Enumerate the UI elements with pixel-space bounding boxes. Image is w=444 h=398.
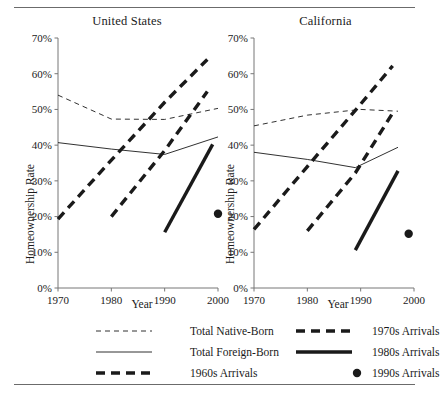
plot-area-united-states: 0%10%20%30%40%50%60%70%1970198019902000 [58, 38, 218, 288]
legend-label-1990s-arrivals: 1990s Arrivals [368, 367, 444, 379]
legend-swatch-1980s-arrivals [296, 341, 368, 362]
legend-label-total-foreign-born: Total Foreign-Born [184, 346, 296, 358]
y-tick-label: 30% [228, 175, 248, 187]
y-tick-label: 70% [32, 32, 52, 44]
y-tick-label: 0% [233, 282, 248, 294]
legend-swatch-total-native-born [96, 320, 184, 341]
y-tick-label: 50% [228, 103, 248, 115]
data-point-1990s-arrivals [404, 230, 412, 238]
chart-panel-united-states: United States Homeownership Rate 0%10%20… [10, 14, 220, 314]
y-tick-label: 20% [228, 210, 248, 222]
series-line-1980s-arrivals [165, 144, 213, 232]
y-tick-label: 70% [228, 32, 248, 44]
panel-title-united-states: United States [10, 14, 220, 29]
legend-label-1970s-arrivals: 1970s Arrivals [368, 325, 444, 337]
series-line-1970s-arrivals [307, 113, 392, 231]
y-tick-label: 10% [32, 246, 52, 258]
bottom-divider-rule [14, 384, 415, 385]
y-tick-label: 50% [32, 103, 52, 115]
y-tick-label: 40% [228, 139, 248, 151]
legend-swatch-1960s-arrivals [96, 362, 184, 383]
series-line-total-foreign-born [254, 147, 398, 167]
y-tick-label: 10% [228, 246, 248, 258]
panel-title-california: California [220, 14, 425, 29]
y-tick-label: 20% [32, 210, 52, 222]
legend-swatch-1970s-arrivals [296, 320, 368, 341]
series-line-total-foreign-born [58, 137, 218, 155]
legend-label-total-native-born: Total Native-Born [184, 325, 296, 337]
x-axis-label-us: Year [62, 298, 222, 310]
plot-area-california: 0%10%20%30%40%50%60%70%1970198019902000 [254, 38, 414, 288]
legend-label-1980s-arrivals: 1980s Arrivals [368, 346, 444, 358]
x-axis-label-ca: Year [258, 298, 418, 310]
y-tick-label: 60% [228, 68, 248, 80]
chart-panel-california: California Homeownership Rate 0%10%20%30… [220, 14, 425, 314]
series-line-total-native-born [254, 109, 398, 125]
legend-swatch-1990s-arrivals [296, 362, 368, 383]
y-tick-label: 30% [32, 175, 52, 187]
y-tick-label: 40% [32, 139, 52, 151]
y-tick-label: 0% [37, 282, 52, 294]
legend-label-1960s-arrivals: 1960s Arrivals [184, 367, 296, 379]
series-line-1980s-arrivals [355, 171, 398, 250]
top-divider-rule [14, 7, 415, 8]
chart-legend: Total Native-Born1970s ArrivalsTotal For… [0, 320, 429, 382]
y-tick-label: 60% [32, 68, 52, 80]
legend-swatch-total-foreign-born [96, 341, 184, 362]
